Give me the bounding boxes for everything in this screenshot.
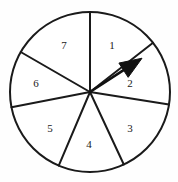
spinner-figure: 1234567 xyxy=(0,0,178,182)
sector-label-3: 3 xyxy=(127,123,133,134)
sector-label-1: 1 xyxy=(109,40,115,51)
sector-label-6: 6 xyxy=(33,78,39,89)
spinner-wheel-graphic xyxy=(0,0,178,182)
sector-label-7: 7 xyxy=(61,40,67,51)
sector-label-5: 5 xyxy=(47,123,53,134)
sector-label-4: 4 xyxy=(86,139,92,150)
sector-label-2: 2 xyxy=(127,78,133,89)
